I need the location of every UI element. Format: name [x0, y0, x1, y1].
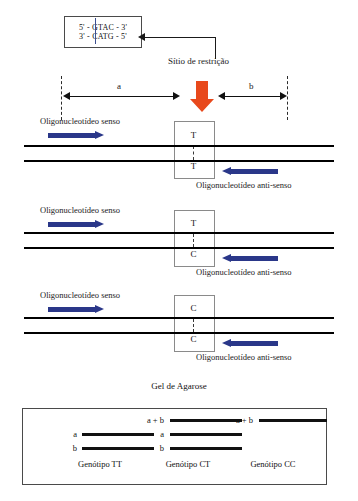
sequence-top-strand: 5' - GTAC - 3': [79, 23, 127, 32]
agarose-gel-panel: a b Genótipo TT a + b a b Genótipo CT a …: [22, 408, 327, 485]
allele-pairing-dash-3: [193, 319, 194, 332]
gel-band: [170, 447, 242, 450]
restriction-enzyme-cut-arrow-icon: [189, 81, 215, 113]
allele-top-base-1: T: [174, 130, 213, 140]
restriction-leader-horizontal: [140, 37, 216, 38]
primer-sense-arrow-1: [48, 131, 104, 140]
gel-title: Gel de Agarose: [0, 381, 358, 391]
dna-strand-bottom-2: [24, 247, 334, 249]
allele-pairing-dash-1: [193, 146, 194, 160]
restriction-sequence-box: 5' - GTAC - 3' 3' - CATG - 5': [64, 16, 142, 48]
primer-antisense-arrow-3: [222, 339, 278, 348]
segment-a-right-arrowhead-icon: [173, 92, 180, 100]
dna-strand-top-1: [24, 145, 334, 147]
restriction-site-label: Sítio de restrição: [168, 57, 229, 66]
dna-strand-bottom-1: [24, 160, 334, 162]
segment-b-line: [224, 96, 280, 97]
allele-top-base-2: T: [174, 218, 213, 228]
dna-strand-top-3: [24, 317, 334, 319]
allele-pairing-dash-2: [193, 234, 194, 247]
gel-band-label: a + b: [136, 415, 164, 425]
amplicon-left-boundary: [61, 76, 62, 120]
gel-band-label: a + b: [225, 415, 253, 425]
dna-strand-top-2: [24, 232, 334, 234]
gel-band: [259, 419, 327, 422]
primer-antisense-label-3: Oligonucleotídeo anti-senso: [196, 353, 292, 362]
sequence-bottom-strand: 3' - CATG - 5': [79, 32, 127, 41]
allele-bottom-base-1: T: [174, 161, 213, 171]
primer-antisense-label-2: Oligonucleotídeo anti-senso: [196, 268, 292, 277]
gel-band-label: a: [63, 429, 77, 439]
segment-b-right-arrowhead-icon: [280, 92, 287, 100]
gel-band: [170, 433, 242, 436]
segment-a-label: a: [117, 82, 121, 91]
primer-sense-label-3: Oligonucleotídeo senso: [40, 291, 120, 300]
amplicon-right-boundary: [287, 76, 288, 120]
primer-antisense-label-1: Oligonucleotídeo anti-senso: [196, 181, 292, 190]
primer-antisense-arrow-1: [222, 167, 278, 176]
primer-antisense-arrow-2: [222, 254, 278, 263]
gel-band-label: a: [136, 429, 164, 439]
restriction-leader-arrowhead-icon: [138, 33, 145, 41]
restriction-cut-line-icon: [95, 18, 96, 44]
allele-top-base-3: C: [174, 303, 213, 313]
segment-a-line: [69, 96, 173, 97]
primer-sense-label-1: Oligonucleotídeo senso: [40, 117, 120, 126]
gel-lane-label-cc: Genótipo CC: [218, 459, 328, 469]
segment-b-label: b: [249, 82, 254, 91]
gel-band-label: b: [136, 443, 164, 453]
dna-strand-bottom-3: [24, 332, 334, 334]
primer-sense-label-2: Oligonucleotídeo senso: [40, 206, 120, 215]
gel-band-label: b: [63, 443, 77, 453]
primer-sense-arrow-3: [48, 305, 104, 314]
allele-bottom-base-3: C: [174, 334, 213, 344]
primer-sense-arrow-2: [48, 220, 104, 229]
allele-bottom-base-2: C: [174, 249, 213, 259]
